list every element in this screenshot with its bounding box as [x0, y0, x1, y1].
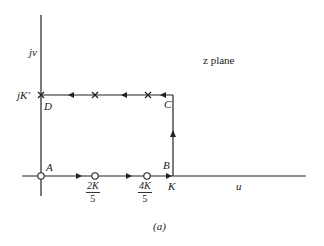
k-tick-label: K	[168, 181, 175, 192]
arrow-right-icon	[166, 173, 172, 179]
plane-label: z plane	[203, 55, 234, 66]
arrow-up-icon	[170, 130, 176, 137]
figure-caption: (a)	[153, 221, 166, 232]
arrow-right-icon	[76, 173, 82, 179]
jk-prime-label: jK'	[17, 90, 30, 101]
point-a-label: A	[46, 162, 53, 173]
zero-marker-icon	[38, 173, 44, 179]
point-d-label: D	[44, 101, 52, 112]
real-axis-label: u	[236, 181, 242, 192]
arrow-left-icon	[121, 92, 127, 98]
zero-marker-icon	[144, 173, 150, 179]
tick-2k-over-5: 2K 5	[86, 181, 100, 204]
arrow-left-icon	[68, 92, 74, 98]
zero-marker-icon	[92, 173, 98, 179]
imaginary-axis-label: jv	[29, 47, 37, 58]
point-b-label: B	[163, 160, 170, 171]
tick-4k-over-5: 4K 5	[138, 181, 152, 204]
point-c-label: C	[164, 99, 171, 110]
z-plane-diagram	[0, 0, 324, 246]
arrow-right-icon	[126, 173, 132, 179]
